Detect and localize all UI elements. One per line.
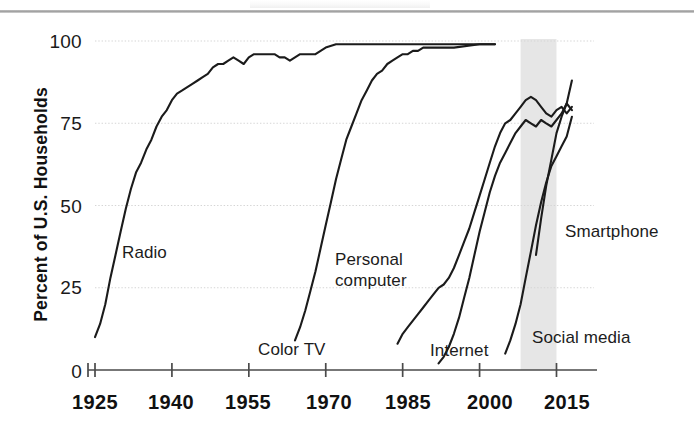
x-tick-1940: 1940 [131, 391, 211, 414]
shaded-band-layer [521, 39, 557, 370]
shaded-band [521, 39, 557, 370]
y-tick-50: 50 [48, 196, 82, 218]
x-tick-2000: 2000 [450, 391, 530, 414]
x-tick-1925: 1925 [55, 391, 135, 414]
series-label-internet: Internet [430, 341, 488, 361]
x-tick-1955: 1955 [208, 391, 288, 414]
y-tick-100: 100 [38, 31, 82, 53]
y-tick-0: 0 [56, 361, 82, 383]
y-tick-75: 75 [48, 113, 82, 135]
series-label-personal-computer-line1: Personal [335, 250, 403, 270]
figure-root: Percent of U.S. Households 0 25 50 75 10… [0, 0, 694, 441]
x-tick-1985: 1985 [368, 391, 448, 414]
x-tick-1970: 1970 [289, 391, 369, 414]
series-label-radio: Radio [122, 243, 167, 263]
series-label-color-tv: Color TV [258, 340, 326, 360]
y-tick-25: 25 [48, 277, 82, 299]
line-chart [0, 0, 694, 441]
series-label-personal-computer-line2: computer [335, 271, 407, 291]
scan-artifact-top [250, 0, 430, 8]
series-label-social-media: Social media [532, 328, 631, 348]
series-curves [95, 44, 572, 363]
x-tick-2015: 2015 [527, 391, 607, 414]
page-rule-line [0, 10, 694, 13]
series-label-smartphone: Smartphone [565, 222, 659, 242]
